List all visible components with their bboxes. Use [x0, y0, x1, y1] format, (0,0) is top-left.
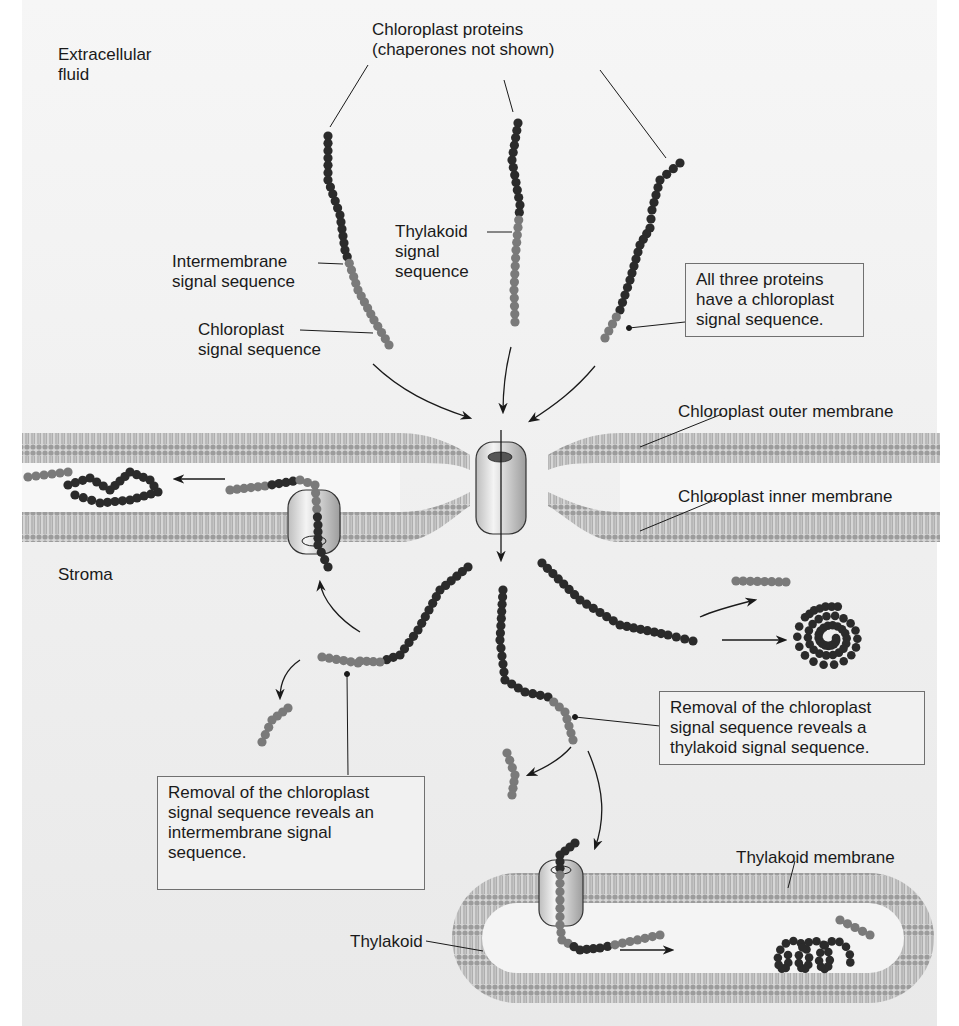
label-chloroplast-signal-sequence: Chloroplastsignal sequence	[198, 320, 321, 360]
intermembrane-space	[22, 463, 400, 512]
callout-intermembrane-reveal: Removal of the chloroplastsignal sequenc…	[157, 776, 425, 890]
label-inner-membrane: Chloroplast inner membrane	[678, 487, 893, 507]
chloroplast-protein-import-diagram	[0, 0, 959, 1026]
label-intermembrane-signal-sequence: Intermembranesignal sequence	[172, 252, 295, 292]
label-thylakoid-membrane: Thylakoid membrane	[736, 848, 895, 868]
label-chloroplast-proteins: Chloroplast proteins(chaperones not show…	[372, 20, 554, 60]
label-outer-membrane: Chloroplast outer membrane	[678, 402, 893, 422]
label-thylakoid: Thylakoid	[350, 932, 423, 952]
label-stroma: Stroma	[58, 565, 113, 585]
label-thylakoid-signal-sequence: Thylakoidsignalsequence	[395, 222, 469, 282]
label-extracellular-fluid: Extracellularfluid	[58, 45, 152, 85]
callout-all-three-proteins: All three proteinshave a chloroplastsign…	[685, 263, 864, 337]
callout-thylakoid-reveal: Removal of the chloroplastsignal sequenc…	[659, 691, 925, 765]
